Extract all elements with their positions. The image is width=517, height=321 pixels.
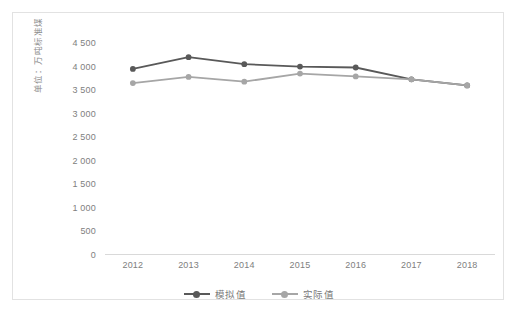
legend-item-1[interactable]: 模拟值 [184, 287, 246, 301]
x-tick-label: 2013 [178, 260, 199, 270]
x-axis-tick-labels: 2012201320142015201620172018 [105, 260, 495, 276]
data-point [297, 71, 303, 77]
data-point [241, 79, 247, 85]
legend-label: 实际值 [303, 287, 334, 301]
y-tick-label: 500 [80, 226, 96, 236]
data-point [297, 64, 303, 70]
legend-marker-icon [184, 289, 210, 299]
y-tick-label: 2 000 [72, 156, 96, 166]
chart-legend: 模拟值实际值 [13, 287, 505, 301]
x-tick-label: 2018 [457, 260, 478, 270]
data-point [409, 76, 415, 82]
x-tick-label: 2015 [290, 260, 311, 270]
y-tick-label: 4 000 [72, 62, 96, 72]
y-tick-label: 1 500 [72, 179, 96, 189]
series-lines-svg [105, 43, 495, 255]
y-axis-tick-labels: 4 5004 0003 5003 0002 5002 0001 5001 000… [55, 43, 100, 255]
y-tick-label: 3 500 [72, 85, 96, 95]
data-point [186, 74, 192, 80]
x-tick-label: 2016 [345, 260, 366, 270]
legend-label: 模拟值 [215, 287, 246, 301]
y-tick-label: 3 000 [72, 109, 96, 119]
chart-frame: 单位：万吨标准煤 4 5004 0003 5003 0002 5002 0001… [12, 12, 504, 300]
legend-item-2[interactable]: 实际值 [272, 287, 334, 301]
data-point [130, 66, 136, 72]
data-point [130, 80, 136, 86]
y-axis-title: 单位：万吨标准煤 [31, 0, 43, 93]
plot-area [105, 43, 495, 255]
y-tick-label: 2 500 [72, 132, 96, 142]
data-point [464, 83, 470, 89]
series-2 [130, 71, 470, 89]
data-point [353, 65, 359, 71]
x-tick-label: 2012 [122, 260, 143, 270]
x-tick-label: 2014 [234, 260, 255, 270]
y-tick-label: 0 [91, 250, 96, 260]
data-point [241, 61, 247, 67]
y-tick-label: 4 500 [72, 38, 96, 48]
x-tick-label: 2017 [401, 260, 422, 270]
legend-marker-icon [272, 289, 298, 299]
y-tick-label: 1 000 [72, 203, 96, 213]
data-point [186, 54, 192, 60]
data-point [353, 74, 359, 80]
